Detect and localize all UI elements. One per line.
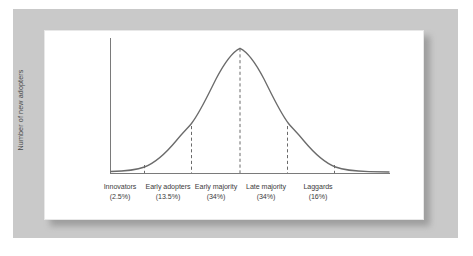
category-percent-late-majority: (34%): [240, 193, 292, 203]
category-label-early-adopters: Early adopters (13.5%): [141, 183, 195, 202]
adoption-curve-plot: [0, 0, 473, 256]
category-label-early-majority: Early majority (34%): [190, 183, 242, 202]
category-name-late-majority: Late majority: [246, 183, 286, 191]
category-percent-early-adopters: (13.5%): [141, 193, 195, 203]
category-percent-early-majority: (34%): [190, 193, 242, 203]
category-label-late-majority: Late majority (34%): [240, 183, 292, 202]
category-percent-innovators: (2.5%): [96, 193, 144, 203]
category-percent-laggards: (16%): [294, 193, 342, 203]
category-label-laggards: Laggards (16%): [294, 183, 342, 202]
bell-curve-path: [111, 48, 389, 172]
category-name-early-majority: Early majority: [195, 183, 237, 191]
category-name-early-adopters: Early adopters: [145, 183, 190, 191]
category-label-innovators: Innovators (2.5%): [96, 183, 144, 202]
figure-canvas: Number of new adopters Innovators (2.5%)…: [0, 0, 473, 256]
category-name-laggards: Laggards: [303, 183, 332, 191]
y-axis-label: Number of new adopters: [14, 45, 28, 175]
segment-divider-lines: [145, 49, 335, 174]
category-name-innovators: Innovators: [104, 183, 137, 191]
